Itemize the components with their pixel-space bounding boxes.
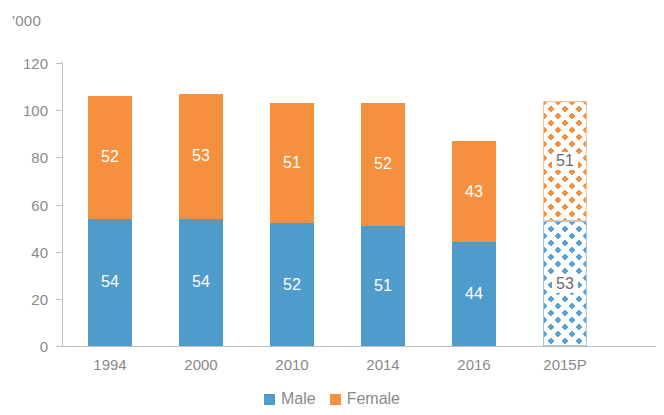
bar-segment-male[interactable]: 54 [179,219,223,346]
y-axis-tick-label: 20 [0,290,48,307]
bar-group[interactable]: 5453 [179,63,223,346]
x-axis-label: 2014 [338,356,428,373]
bar-value-label-male: 54 [101,274,119,290]
bar-value-label-male: 54 [192,274,210,290]
bar-segment-male[interactable]: 53 [543,221,587,346]
chart-legend: MaleFemale [0,390,664,408]
y-axis-tick [56,346,63,347]
y-axis-tick [56,205,63,206]
bar-value-label-female: 53 [192,148,210,164]
bar-group[interactable]: 5251 [270,63,314,346]
bar-segment-female[interactable]: 52 [361,103,405,226]
bar-value-label-male: 53 [552,275,578,293]
stacked-bar-chart: '000 020406080100120 5452545352515152444… [0,0,664,415]
bar-group[interactable]: 5351 [543,63,587,346]
y-axis-tick-label: 40 [0,243,48,260]
bar-value-label-male: 51 [374,278,392,294]
bar-value-label-female: 52 [101,149,119,165]
bar-value-label-female: 51 [552,152,578,170]
legend-label: Male [281,390,316,408]
y-axis-tick-label: 100 [0,102,48,119]
x-axis-label: 2016 [429,356,519,373]
y-axis-tick-label: 80 [0,149,48,166]
bar-group[interactable]: 5452 [88,63,132,346]
bar-segment-female[interactable]: 51 [543,101,587,221]
bar-value-label-female: 51 [283,155,301,171]
x-axis-label: 1994 [65,356,155,373]
y-axis-tick [56,110,63,111]
bar-segment-female[interactable]: 51 [270,103,314,223]
y-axis-tick [56,299,63,300]
legend-item[interactable]: Male [264,390,316,408]
bar-segment-male[interactable]: 51 [361,226,405,346]
y-axis-tick-label: 60 [0,196,48,213]
legend-item[interactable]: Female [330,390,400,408]
y-axis-tick [56,157,63,158]
legend-swatch-icon [264,394,275,405]
y-axis-tick-label: 120 [0,55,48,72]
legend-swatch-icon [330,394,341,405]
plot-area: 545254535251515244435351 [63,63,655,346]
bar-value-label-male: 52 [283,277,301,293]
bar-segment-male[interactable]: 52 [270,223,314,346]
bar-value-label-female: 52 [374,156,392,172]
bar-group[interactable]: 4443 [452,63,496,346]
bar-group[interactable]: 5152 [361,63,405,346]
bar-segment-male[interactable]: 54 [88,219,132,346]
bar-segment-male[interactable]: 44 [452,242,496,346]
y-axis-unit-label: '000 [12,12,41,29]
bar-value-label-male: 44 [465,286,483,302]
y-axis-tick [56,252,63,253]
bar-value-label-female: 43 [465,184,483,200]
x-axis-label: 2015P [520,356,610,373]
x-axis-label: 2000 [156,356,246,373]
legend-label: Female [347,390,400,408]
bar-segment-female[interactable]: 43 [452,141,496,242]
bar-segment-female[interactable]: 53 [179,94,223,219]
bar-segment-female[interactable]: 52 [88,96,132,219]
y-axis-tick-label: 0 [0,338,48,355]
x-axis-line [62,346,656,347]
y-axis-tick [56,63,63,64]
x-axis-label: 2010 [247,356,337,373]
